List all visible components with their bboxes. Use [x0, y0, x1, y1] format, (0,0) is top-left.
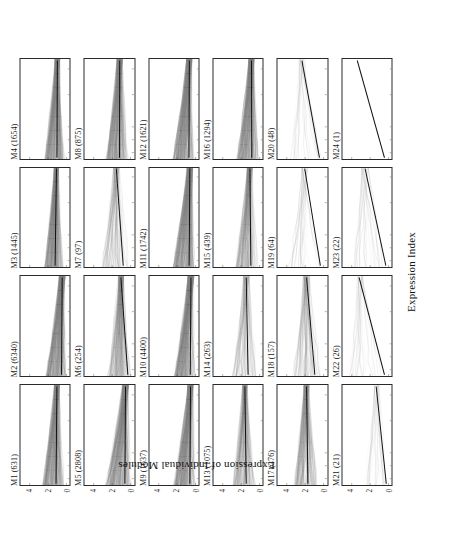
- gene-trajectories: [101, 168, 128, 268]
- module-panel-m15: M15 (439): [203, 167, 263, 269]
- y-tick-label: 4: [25, 489, 33, 493]
- panel-plot-area: [83, 58, 134, 160]
- module-panel-m14: M14 (263): [203, 276, 263, 378]
- y-tick-label: 2: [237, 489, 245, 493]
- module-panel-m20: M20 (48): [267, 58, 327, 160]
- panel-plot-area: [148, 276, 199, 378]
- panel-plot-area: [19, 167, 70, 269]
- module-trend-line: [356, 60, 383, 157]
- panel-title: M2 (6340): [9, 341, 18, 377]
- panel-title: M3 (1445): [9, 232, 18, 268]
- gene-trajectories: [172, 168, 194, 268]
- y-tick-label: 0: [385, 489, 393, 493]
- gene-trajectories: [172, 59, 194, 159]
- y-tick-label: 4: [218, 489, 226, 493]
- y-tick-label: 4: [89, 489, 97, 493]
- rotated-figure-content: M1 (631)024M2 (6340)M3 (1445)M4 (1654)M5…: [0, 0, 449, 540]
- y-tick-label: 0: [127, 489, 135, 493]
- panel-plot-area: 103.4103.6103.8104.3104.7: [341, 167, 392, 269]
- panel-title: M10 (4400): [138, 337, 147, 377]
- y-tick-label: 0: [320, 489, 328, 493]
- panel-title: M12 (1621): [138, 119, 147, 159]
- y-tick-labels: 024: [276, 486, 327, 504]
- y-tick-label: 0: [192, 489, 200, 493]
- panel-ticks: [351, 177, 391, 267]
- panel-title: M14 (263): [202, 341, 211, 377]
- panel-title: M11 (1742): [138, 228, 147, 268]
- panel-plot-area: [212, 276, 263, 378]
- x-tick-labels: 103.4103.6103.8104.3104.7: [391, 59, 392, 159]
- y-tick-label: 4: [346, 489, 354, 493]
- panel-title: M18 (157): [266, 341, 275, 377]
- panel-title: M4 (1654): [9, 124, 18, 160]
- gene-trajectories: [235, 168, 258, 268]
- module-panel-m10: M10 (4400): [139, 276, 199, 378]
- panel-ticks: [287, 177, 327, 267]
- panel-plot-area: 103.4103.6103.8104.3104.7: [341, 276, 392, 378]
- panel-title: M7 (97): [73, 241, 82, 269]
- gene-trajectories: [44, 59, 64, 159]
- y-tick-label: 0: [256, 489, 264, 493]
- y-tick-label: 4: [153, 489, 161, 493]
- panel-plot-area: [148, 58, 199, 160]
- y-axis-label: Expression of Individual Modules: [5, 460, 387, 472]
- y-tick-label: 2: [44, 489, 52, 493]
- panel-title: M20 (48): [266, 128, 275, 160]
- module-panel-m18: M18 (157): [267, 276, 327, 378]
- module-panel-m6: M6 (254): [74, 276, 134, 378]
- panel-plot-area: [212, 58, 263, 160]
- gene-trajectories: [236, 59, 259, 159]
- panel-plot-area: [19, 58, 70, 160]
- module-panel-m24: M24 (1)103.4103.6103.8104.3104.7: [332, 58, 392, 160]
- gene-trajectories: [293, 277, 321, 377]
- panel-plot-area: [212, 167, 263, 269]
- x-axis-label: Expression Index: [404, 58, 416, 486]
- y-tick-label: 4: [282, 489, 290, 493]
- module-panel-m7: M7 (97): [74, 167, 134, 269]
- module-panel-m19: M19 (64): [267, 167, 327, 269]
- gene-trajectories: [105, 59, 128, 159]
- panel-plot-area: [83, 276, 134, 378]
- gene-trajectories: [44, 168, 63, 268]
- y-tick-labels: 024: [148, 486, 199, 504]
- module-panel-m11: M11 (1742): [139, 167, 199, 269]
- y-tick-labels: 024: [212, 486, 263, 504]
- figure-panel-matrix: M1 (631)024M2 (6340)M3 (1445)M4 (1654)M5…: [0, 0, 449, 540]
- panel-plot-area: [276, 276, 327, 378]
- panel-title: M16 (1294): [202, 119, 211, 159]
- module-panel-m2: M2 (6340): [10, 276, 70, 378]
- panel-title: M8 (875): [73, 128, 82, 160]
- module-panel-m16: M16 (1294): [203, 58, 263, 160]
- module-panel-m3: M3 (1445): [10, 167, 70, 269]
- y-tick-label: 2: [172, 489, 180, 493]
- panel-title: M6 (254): [73, 345, 82, 377]
- y-tick-labels: 024: [19, 486, 70, 504]
- panel-plot-area: [148, 167, 199, 269]
- y-tick-labels: 024: [341, 486, 392, 504]
- y-tick-labels: 024: [83, 486, 134, 504]
- panel-ticks: [351, 69, 391, 159]
- module-panel-m12: M12 (1621): [139, 58, 199, 160]
- y-tick-label: 2: [301, 489, 309, 493]
- panel-plot-area: [276, 58, 327, 160]
- panel-plot-area: [83, 167, 134, 269]
- x-tick-labels: 103.4103.6103.8104.3104.7: [391, 168, 392, 268]
- panel-title: M22 (26): [331, 345, 340, 377]
- panel-plot-area: [276, 167, 327, 269]
- panel-title: M23 (22): [331, 237, 340, 269]
- panel-plot-area: 103.4103.6103.8104.3104.7: [341, 58, 392, 160]
- gene-trajectories: [288, 168, 319, 268]
- module-panel-m23: M23 (22)103.4103.6103.8104.3104.7: [332, 167, 392, 269]
- y-tick-label: 2: [365, 489, 373, 493]
- gene-trajectories: [231, 277, 255, 377]
- module-panel-m8: M8 (875): [74, 58, 134, 160]
- panel-title: M15 (439): [202, 232, 211, 268]
- panel-title: M24 (1): [331, 132, 340, 160]
- y-tick-label: 2: [108, 489, 116, 493]
- x-tick-labels: 103.4103.6103.8104.3104.7: [391, 277, 392, 377]
- gene-trajectories: [173, 277, 195, 377]
- panel-plot-area: [19, 276, 70, 378]
- module-panel-m4: M4 (1654): [10, 58, 70, 160]
- module-panel-m22: M22 (26)103.4103.6103.8104.3104.7: [332, 276, 392, 378]
- x-tick-labels: 103.4103.6103.8104.3104.7: [391, 385, 392, 485]
